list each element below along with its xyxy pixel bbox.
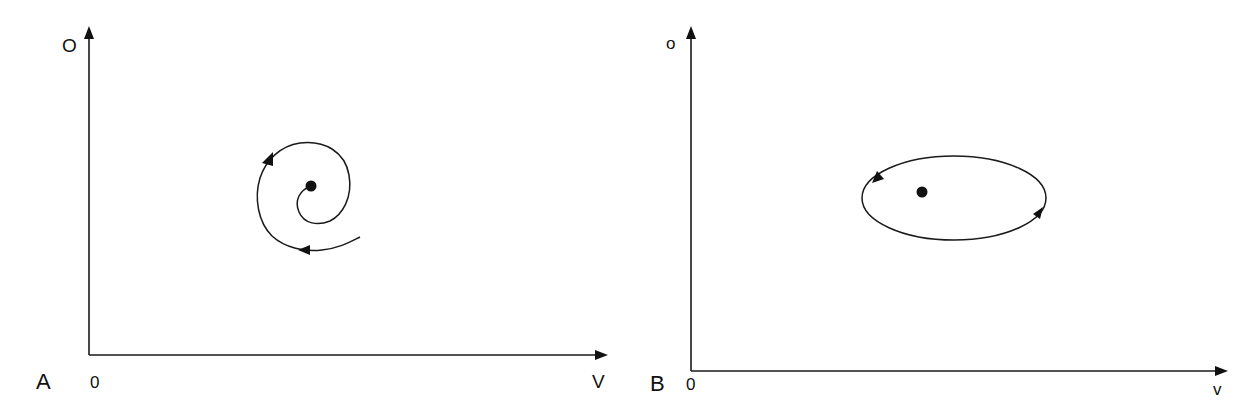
panel-a-fixed-point [306, 181, 317, 192]
panel-b-origin-label: 0 [686, 375, 695, 394]
panel-b-x-axis-arrowhead-icon [1215, 366, 1228, 376]
phase-plane-figure: O A 0 V o B 0 v [0, 0, 1253, 412]
panel-a-flow-arrow-bottom-icon [298, 245, 310, 255]
panel-b-label: B [650, 371, 665, 396]
panel-a-x-axis-label: V [592, 371, 605, 392]
panel-a-x-axis-arrowhead-icon [595, 350, 608, 360]
panel-a-origin-label: 0 [90, 373, 99, 392]
panel-b: o B 0 v [650, 26, 1228, 399]
panel-a: O A 0 V [36, 26, 608, 394]
panel-b-y-axis-label: o [666, 34, 675, 53]
panel-a-y-axis-arrowhead-icon [84, 26, 94, 39]
panel-a-flow-arrow-left-icon [262, 152, 273, 166]
panel-b-flow-arrow-right-icon [1033, 207, 1043, 219]
panel-a-y-axis-label: O [62, 35, 77, 56]
panel-b-closed-orbit [862, 156, 1046, 240]
panel-b-x-axis-label: v [1213, 380, 1222, 399]
panel-b-y-axis-arrowhead-icon [686, 26, 696, 39]
panel-a-label: A [36, 369, 51, 394]
panel-b-fixed-point [917, 187, 928, 198]
